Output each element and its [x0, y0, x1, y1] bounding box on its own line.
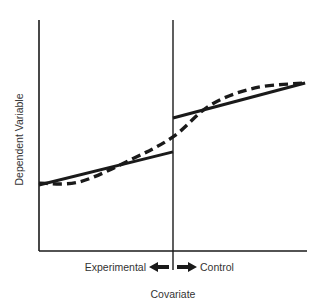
dashed-curve-series	[39, 83, 305, 184]
experimental-regression-line	[39, 152, 173, 185]
arrow-right-icon	[177, 262, 197, 272]
axes	[39, 20, 307, 270]
control-label: Control	[200, 261, 234, 273]
chart: Dependent Variable Covariate Experimenta…	[0, 0, 327, 307]
series-layer	[39, 83, 305, 185]
experimental-label: Experimental	[85, 261, 146, 273]
x-axis-label: Covariate	[151, 288, 196, 300]
arrow-left-icon	[149, 262, 169, 272]
y-axis-label: Dependent Variable	[13, 93, 25, 185]
control-regression-line	[173, 83, 305, 118]
